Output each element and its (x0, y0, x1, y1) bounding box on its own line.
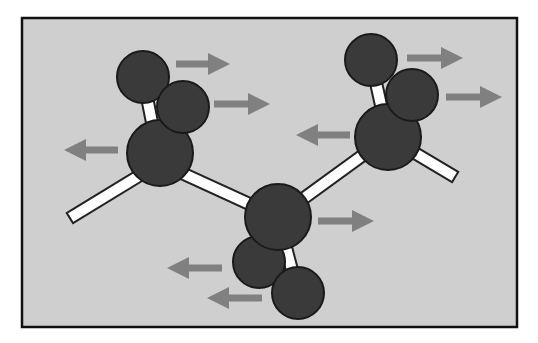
hydrogen-bottom-b-atom (272, 267, 324, 319)
hydrogen-top-left-b-atom (157, 81, 209, 133)
carbon-center-atom (245, 184, 311, 250)
hydrogen-top-right-b-atom (386, 69, 438, 121)
molecule-diagram (0, 0, 538, 343)
hydrogen-top-right-a-atom (345, 34, 397, 86)
